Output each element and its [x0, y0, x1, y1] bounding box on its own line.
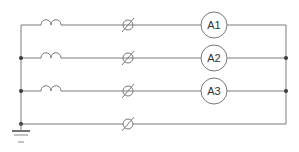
ground-icon: [12, 124, 30, 142]
junction-node: [284, 56, 288, 60]
branch-4: [21, 117, 286, 131]
ammeter-a3: A3: [201, 78, 227, 104]
ammeter-label: A1: [207, 19, 220, 31]
ammeter-label: A2: [207, 52, 220, 64]
branch-2: A2: [21, 45, 286, 71]
inductor-icon: [41, 86, 61, 91]
inductor-icon: [41, 20, 61, 25]
ammeter-a1: A1: [201, 12, 227, 38]
branch-1: A1: [21, 12, 286, 38]
circuit-diagram: A1 A2 A3: [0, 0, 299, 152]
junction-node: [284, 89, 288, 93]
junction-node: [19, 89, 23, 93]
inductor-icon: [41, 53, 61, 58]
branch-3: A3: [21, 78, 286, 104]
fuse-icon: [122, 117, 134, 131]
ammeter-a2: A2: [201, 45, 227, 71]
ammeter-label: A3: [207, 85, 220, 97]
junction-node: [19, 56, 23, 60]
